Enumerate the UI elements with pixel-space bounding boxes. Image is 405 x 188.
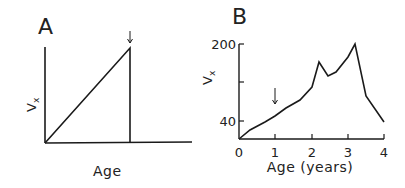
panel-b: B 200 40 0 1 2 3 4 Vx Age (years) xyxy=(200,4,388,175)
panel-b-y-label: Vx xyxy=(200,70,217,85)
panel-a-label: A xyxy=(38,14,53,39)
panel-b-xtick-label-4: 4 xyxy=(380,145,388,160)
panel-a-arrow-down-icon xyxy=(128,31,133,43)
panel-b-ytick-label-40: 40 xyxy=(219,114,236,129)
panel-a-curve xyxy=(45,48,130,143)
panel-b-x-label: Age (years) xyxy=(267,159,353,175)
panel-b-xtick-label-1: 1 xyxy=(271,145,279,160)
panel-b-curve xyxy=(239,44,384,139)
panel-b-ytick-label-200: 200 xyxy=(211,37,236,52)
panel-a: A Vx Age xyxy=(24,14,192,179)
panel-b-arrow-down-icon xyxy=(273,88,278,104)
panel-a-x-label: Age xyxy=(93,163,122,179)
panel-b-xtick-label-0: 0 xyxy=(235,145,243,160)
panel-a-y-label: Vx xyxy=(24,97,41,112)
panel-a-x-axis xyxy=(45,142,192,143)
figure-canvas: A Vx Age B 200 40 0 1 2 3 xyxy=(0,0,405,188)
panel-b-xtick-label-2: 2 xyxy=(308,145,316,160)
panel-b-xtick-label-3: 3 xyxy=(344,145,352,160)
panel-b-label: B xyxy=(232,4,247,29)
